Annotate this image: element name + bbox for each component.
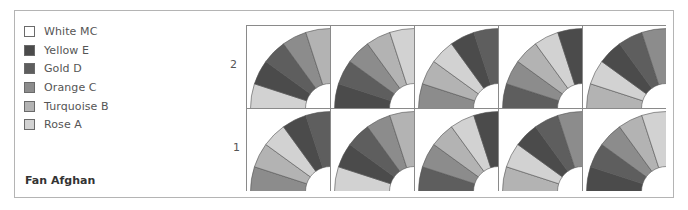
fan-block <box>247 109 331 192</box>
row-label-1: 1 <box>233 141 240 154</box>
legend-label: White MC <box>44 25 97 38</box>
swatch-rose-a <box>24 119 35 130</box>
swatch-gold-d <box>24 63 35 74</box>
row-label-2: 2 <box>230 58 237 71</box>
fan-block <box>499 26 583 109</box>
swatch-turquoise-b <box>24 101 35 112</box>
legend-label: Rose A <box>44 118 82 131</box>
color-legend: White MC Yellow E Gold D Orange C Turquo… <box>24 22 109 134</box>
fan-block <box>415 109 499 192</box>
fan-block <box>499 109 583 192</box>
legend-item-rose-a: Rose A <box>24 115 109 134</box>
fan-block <box>247 26 331 109</box>
legend-item-yellow-e: Yellow E <box>24 41 109 60</box>
fan-block <box>583 109 667 192</box>
legend-label: Orange C <box>44 81 97 94</box>
legend-label: Gold D <box>44 62 82 75</box>
legend-item-turquoise-b: Turquoise B <box>24 97 109 116</box>
swatch-white-mc <box>24 26 35 37</box>
legend-label: Turquoise B <box>44 100 109 113</box>
swatch-orange-c <box>24 82 35 93</box>
legend-item-gold-d: Gold D <box>24 59 109 78</box>
fan-block <box>583 26 667 109</box>
diagram-title: Fan Afghan <box>25 174 95 187</box>
legend-item-white-mc: White MC <box>24 22 109 41</box>
fan-block-grid <box>246 25 666 191</box>
legend-item-orange-c: Orange C <box>24 78 109 97</box>
fan-block <box>415 26 499 109</box>
swatch-yellow-e <box>24 45 35 56</box>
fan-block <box>331 26 415 109</box>
legend-label: Yellow E <box>44 44 89 57</box>
fan-block <box>331 109 415 192</box>
